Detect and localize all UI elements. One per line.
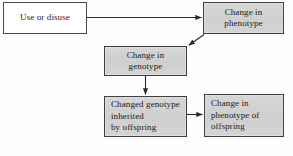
node-changed-genotype-inherited: Changed genotype inherited by offspring bbox=[104, 96, 187, 137]
node-change-in-phenotype-of-offspring-line-3: offspring bbox=[211, 121, 245, 133]
node-change-in-phenotype-line-1: Change in bbox=[225, 7, 263, 19]
node-changed-genotype-inherited-line-1: Changed genotype bbox=[111, 99, 180, 111]
node-changed-genotype-inherited-line-3: by offspring bbox=[111, 122, 156, 134]
node-change-in-phenotype-of-offspring-line-1: Change in bbox=[211, 98, 249, 110]
node-change-in-phenotype-of-offspring: Change in phenotype of offspring bbox=[204, 94, 284, 137]
flow-diagram: Use or disuse Change in phenotype Change… bbox=[0, 0, 293, 156]
connector-phenotype-to-genotype bbox=[189, 35, 204, 46]
node-changed-genotype-inherited-line-2: inherited bbox=[111, 111, 144, 123]
node-use-or-disuse-line-1: Use or disuse bbox=[20, 12, 70, 24]
node-change-in-phenotype-of-offspring-line-2: phenotype of bbox=[211, 110, 259, 122]
node-change-in-genotype: Change in genotype bbox=[104, 46, 187, 76]
node-use-or-disuse: Use or disuse bbox=[3, 2, 87, 34]
node-change-in-genotype-line-1: Change in bbox=[127, 50, 165, 62]
node-change-in-phenotype-line-2: phenotype bbox=[224, 18, 262, 30]
node-change-in-phenotype: Change in phenotype bbox=[203, 2, 284, 34]
node-change-in-genotype-line-2: genotype bbox=[129, 61, 163, 73]
